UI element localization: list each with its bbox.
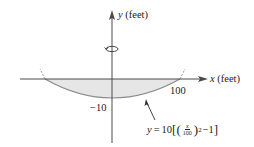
pointer-arrow-icon [145,99,150,106]
x-max-tick-label: 100 [170,86,186,97]
eq-frac-den: 100 [182,130,193,136]
curve-extension-right [180,69,185,79]
y-axis-var: y [118,9,123,20]
curve-equation: y = 10 [ ( x 100 ) 2 −1 ] [147,123,218,136]
curve-extension-left [40,69,45,79]
eq-minus-one: −1 [203,124,214,135]
y-min-tick-label: −10 [90,103,106,114]
rotation-arrow-icon [105,46,119,51]
eq-open-paren: ( [176,123,180,136]
eq-exponent: 2 [198,126,202,134]
y-axis-unit: (feet) [125,9,148,20]
eq-equals: = [154,124,160,135]
eq-coef: 10 [162,124,173,135]
eq-frac-num: x [185,123,190,130]
y-axis-label: y (feet) [118,10,148,21]
x-axis-unit: (feet) [217,73,240,84]
eq-fraction: x 100 [182,123,193,136]
eq-close-bracket: ] [214,123,218,136]
eq-lhs: y [147,124,152,135]
x-axis-label: x (feet) [210,74,240,85]
x-axis-var: x [210,73,215,84]
